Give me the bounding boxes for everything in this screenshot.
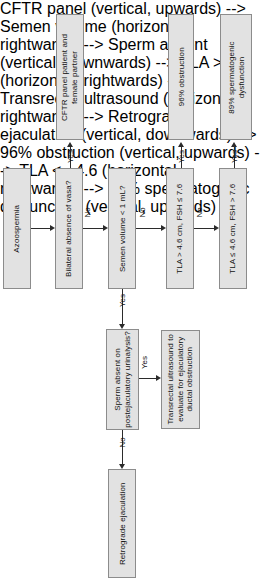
arrowhead-sperm-no-to-retrograde (119, 464, 125, 469)
node-semen-volume-label: Semen volume < 1 mL? (117, 185, 127, 272)
arrowhead-vasa-no-to-semen (103, 225, 108, 231)
arrowhead-vasa-yes-to-cftr (67, 142, 73, 147)
edge-label-sperm-no: No (118, 437, 127, 447)
node-retrograde-ejaculation-label: Retrograde ejaculation (117, 482, 127, 565)
node-cftr-panel-line1: CFTR panel patient and (61, 33, 70, 120)
node-azoospermia: Azoospermia (3, 168, 31, 289)
node-bilateral-absence-vasa: Bilateral absence of vasa? (55, 168, 83, 289)
edge-label-tla-low-yes: Yes (230, 150, 239, 163)
node-transrectal-ultrasound-label: Transrectal ultrasound to evaluate for e… (166, 334, 195, 425)
node-tla-high: TLA > 4.6 cm, FSH ≤ 7.6 (166, 168, 194, 289)
node-tla-low: TLA ≤ 4.6 cm, FSH > 7.6 (219, 168, 247, 289)
connector-semen-no-to-tla-high (136, 228, 161, 229)
node-sperm-absent-label: Sperm absent on postejaculatory urinalys… (113, 331, 132, 428)
node-tla-high-label: TLA > 4.6 cm, FSH ≤ 7.6 (175, 183, 185, 273)
node-bilateral-absence-vasa-label: Bilateral absence of vasa? (64, 180, 74, 276)
node-semen-volume: Semen volume < 1 mL? (108, 168, 136, 289)
node-azoospermia-label: Azoospermia (12, 205, 22, 253)
arrowhead-sperm-yes-to-transrectal (156, 375, 161, 381)
arrowhead-azoospermia-to-vasa (50, 225, 55, 231)
node-transrectal-ultrasound-line1: Transrectal ultrasound to (166, 334, 175, 425)
edge-label-tla-high-no: No (195, 207, 204, 217)
node-cftr-panel-line2: female partner (70, 51, 79, 104)
node-sperm-absent-line1: Sperm absent on (113, 348, 122, 410)
edge-label-vasa-no: No (83, 207, 92, 217)
node-obstruction-outcome-label: 96% obstruction (176, 48, 186, 107)
node-transrectal-ultrasound: Transrectal ultrasound to evaluate for e… (161, 330, 200, 429)
node-transrectal-ultrasound-line3: ductal obstruction (185, 347, 194, 412)
node-cftr-panel-label: CFTR panel patient and female partner (61, 33, 80, 120)
node-spermatogenic-outcome: 89% spermatogenic dysfunction (220, 14, 252, 140)
node-transrectal-ultrasound-line2: evaluate for ejaculatory (176, 337, 185, 422)
edge-label-tla-high-yes: Yes (177, 150, 186, 163)
arrowhead-tla-high-no-to-tla-low (214, 225, 219, 231)
edge-label-semen-no: No (138, 207, 147, 217)
node-spermatogenic-outcome-line2: dysfunction (236, 56, 245, 98)
node-spermatogenic-outcome-label: 89% spermatogenic dysfunction (227, 41, 246, 113)
arrowhead-tla-low-yes-to-spermatogenic (231, 142, 237, 147)
edge-label-semen-yes: Yes (118, 294, 127, 307)
connector-tla-high-no-to-tla-low (194, 228, 214, 229)
node-retrograde-ejaculation: Retrograde ejaculation (108, 469, 136, 578)
flowchart-canvas: Azoospermia Bilateral absence of vasa? C… (0, 0, 263, 581)
node-tla-low-label: TLA ≤ 4.6 cm, FSH > 7.6 (228, 183, 238, 273)
node-sperm-absent: Sperm absent on postejaculatory urinalys… (106, 329, 139, 430)
node-obstruction-outcome: 96% obstruction (168, 14, 194, 140)
arrowhead-semen-yes-to-sperm (119, 324, 125, 329)
edge-label-vasa-yes: Yes (66, 150, 75, 163)
node-sperm-absent-line2: postejaculatory urinalysis? (123, 331, 132, 428)
edge-label-sperm-yes: Yes (140, 356, 149, 369)
arrowhead-semen-no-to-tla-high (161, 225, 166, 231)
arrowhead-tla-high-yes-to-obstruction (178, 142, 184, 147)
node-cftr-panel: CFTR panel patient and female partner (56, 14, 84, 140)
node-spermatogenic-outcome-line1: 89% spermatogenic (227, 41, 236, 113)
connector-sperm-yes-to-transrectal (139, 378, 156, 379)
connector-azoospermia-to-vasa (31, 228, 50, 229)
connector-vasa-no-to-semen (83, 228, 103, 229)
